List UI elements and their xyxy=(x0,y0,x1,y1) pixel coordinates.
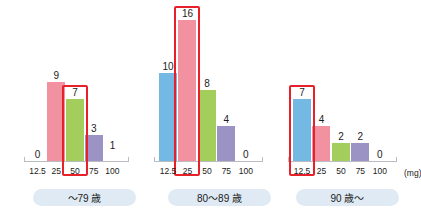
bar-value-label: 2 xyxy=(358,131,364,142)
x-axis-line xyxy=(154,161,262,162)
x-axis-tick-labels: 12.5255075100 xyxy=(0,165,140,179)
x-axis-tick-label: 25 xyxy=(183,165,192,177)
bar-group: 74220 xyxy=(274,12,415,161)
x-axis-tick-label: 100 xyxy=(373,165,387,177)
x-axis-tick-label: 25 xyxy=(51,165,60,177)
x-axis-tick-label: 12.5 xyxy=(294,165,311,177)
x-axis-tick-label: 75 xyxy=(89,165,98,177)
bar: 2 xyxy=(351,143,369,161)
bar: 16 xyxy=(178,20,196,161)
bar-value-label: 10 xyxy=(162,61,173,72)
bar-group: 09731 xyxy=(0,12,140,161)
chart-panel: 7422012.5255075100(mg)90 歳～ xyxy=(274,0,415,210)
bar-value-label: 7 xyxy=(72,87,78,98)
panel-label: 90 歳～ xyxy=(296,189,399,206)
x-axis-tick-label: 100 xyxy=(239,165,253,177)
bar-value-label: 1 xyxy=(110,140,116,151)
bar-group: 1016840 xyxy=(138,12,274,161)
bar-value-label: 8 xyxy=(204,78,210,89)
bar-value-label: 16 xyxy=(182,8,193,19)
x-axis-tick-label: 50 xyxy=(70,165,79,177)
bar: 1 xyxy=(103,152,121,161)
bar: 8 xyxy=(198,90,216,161)
x-axis-tick-label: 75 xyxy=(356,165,365,177)
x-axis-line xyxy=(24,161,128,162)
bar-value-label: 3 xyxy=(91,123,97,134)
panel-label: ～79 歳 xyxy=(33,189,136,206)
bar-value-label: 0 xyxy=(377,149,383,160)
x-axis-tick-label: 25 xyxy=(317,165,326,177)
x-axis-line xyxy=(288,161,396,162)
panel-plot-area: 74220 xyxy=(274,12,415,162)
panel-plot-area: 09731 xyxy=(0,12,140,162)
panel-label: 80～89 歳 xyxy=(168,189,271,206)
x-axis-tick-label: 50 xyxy=(202,165,211,177)
bar: 3 xyxy=(85,135,103,161)
bar: 2 xyxy=(332,143,350,161)
x-axis-tick-label: 12.5 xyxy=(29,165,46,177)
bar: 10 xyxy=(159,73,177,161)
bar-value-label: 4 xyxy=(319,114,325,125)
bar-value-label: 0 xyxy=(35,149,41,160)
panel-plot-area: 1016840 xyxy=(138,12,274,162)
x-axis-tick-label: 100 xyxy=(105,165,119,177)
bar-value-label: 2 xyxy=(338,131,344,142)
x-axis-unit-label: (mg) xyxy=(404,167,421,179)
x-axis-tick-label: 75 xyxy=(222,165,231,177)
x-axis-tick-label: 50 xyxy=(336,165,345,177)
bar-value-label: 7 xyxy=(299,87,305,98)
x-axis-tick-labels: 12.5255075100 xyxy=(274,165,415,179)
bar-value-label: 0 xyxy=(243,149,249,160)
bar: 4 xyxy=(217,126,235,161)
bar: 7 xyxy=(66,99,84,161)
x-axis-tick-label: 12.5 xyxy=(160,165,177,177)
chart-panel: 0973112.5255075100～79 歳 xyxy=(0,0,140,210)
bar: 9 xyxy=(47,82,65,161)
bar-value-label: 9 xyxy=(53,70,59,81)
x-axis-tick-labels: 12.5255075100 xyxy=(138,165,274,179)
bar-value-label: 4 xyxy=(224,114,230,125)
chart-panel: 101684012.525507510080～89 歳 xyxy=(138,0,274,210)
bar: 7 xyxy=(293,99,311,161)
bar: 4 xyxy=(312,126,330,161)
